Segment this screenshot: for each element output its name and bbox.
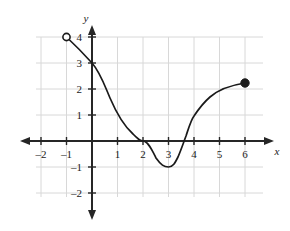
y-axis-label: y [83, 12, 89, 24]
x-axis-label: x [274, 145, 280, 157]
y-tick-label--2: –2 [70, 187, 82, 199]
x-tick-label-3: 3 [166, 148, 172, 160]
x-tick-label--1: –1 [60, 148, 72, 160]
y-tick-label-3: 3 [77, 57, 83, 69]
graph-figure: –2 –1 1 2 3 4 5 6 4 3 2 1 –1 –2 y x [0, 0, 290, 231]
x-tick-label-2: 2 [140, 148, 146, 160]
open-circle-endpoint [63, 33, 70, 40]
x-tick-label-1: 1 [115, 148, 121, 160]
filled-dot-endpoint [241, 79, 249, 87]
x-tick-label-4: 4 [191, 148, 197, 160]
y-tick-label-4: 4 [77, 31, 83, 43]
y-tick-label--1: –1 [70, 161, 82, 173]
x-tick-label--2: –2 [35, 148, 47, 160]
y-tick-label-1: 1 [77, 109, 83, 121]
y-tick-label-2: 2 [77, 83, 83, 95]
x-tick-label-5: 5 [217, 148, 223, 160]
coordinate-plane-svg: –2 –1 1 2 3 4 5 6 4 3 2 1 –1 –2 y x [0, 0, 290, 231]
x-tick-label-6: 6 [242, 148, 248, 160]
